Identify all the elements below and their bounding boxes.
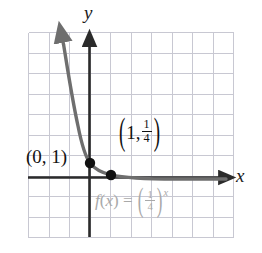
function-exponent: x — [164, 187, 169, 198]
point-y-intercept — [85, 158, 95, 168]
function-open-paren: ( — [138, 184, 144, 217]
point-label-fraction: 14 — [142, 118, 152, 145]
fraction-denominator: 4 — [145, 200, 154, 212]
point-label-x-one: (1,14) — [118, 119, 161, 146]
function-curve — [62, 38, 226, 179]
function-equals-sign: = — [123, 191, 133, 210]
axis-label-x: x — [236, 166, 244, 185]
fraction-numerator: 1 — [145, 189, 154, 200]
point-label-y-intercept: (0, 1) — [26, 147, 67, 166]
point-label-close-paren: ) — [154, 111, 160, 150]
axis-label-y: y — [84, 3, 92, 22]
exponential-function-graph: y x (0, 1) (1,14) f(x) = (14)x — [0, 0, 262, 253]
fraction-numerator: 1 — [142, 118, 152, 131]
function-base-fraction: 14 — [145, 189, 154, 213]
function-close-arg: ) — [113, 191, 119, 210]
function-equation-label: f(x) = (14)x — [95, 190, 168, 214]
function-argument: x — [105, 191, 113, 210]
point-label-open-paren: ( — [119, 111, 125, 150]
point-x-one — [106, 170, 116, 180]
point-label-x-value: 0, — [32, 146, 46, 167]
point-label-close-paren: ) — [61, 146, 67, 167]
point-label-x-value: 1, — [126, 123, 140, 142]
fraction-denominator: 4 — [142, 131, 152, 145]
function-close-paren: ) — [157, 184, 163, 217]
point-label-y-value: 1 — [51, 146, 61, 167]
